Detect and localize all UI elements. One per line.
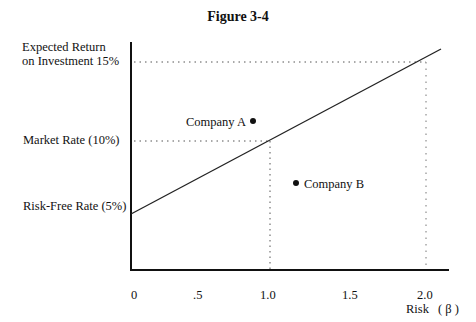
x-tick-0-5: .5 bbox=[193, 288, 202, 302]
company-a-point bbox=[250, 118, 256, 124]
x-axis-label: Risk bbox=[406, 302, 429, 316]
x-tick-0: 0 bbox=[131, 288, 137, 302]
x-axis-beta-symbol: ( β ) bbox=[438, 302, 459, 316]
company-b-label: Company B bbox=[304, 177, 364, 191]
x-tick-1-5: 1.5 bbox=[342, 288, 358, 302]
security-market-line bbox=[131, 49, 441, 214]
plot-area bbox=[0, 0, 476, 322]
company-b-point bbox=[293, 180, 299, 186]
x-tick-2-0: 2.0 bbox=[417, 288, 433, 302]
x-tick-1-0: 1.0 bbox=[260, 288, 276, 302]
company-a-label: Company A bbox=[186, 115, 246, 129]
